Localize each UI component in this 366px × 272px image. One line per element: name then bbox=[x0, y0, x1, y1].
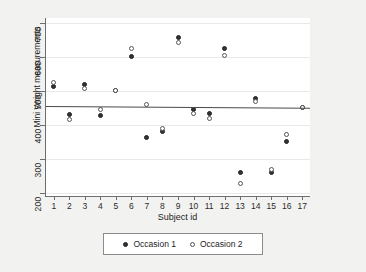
x-tick-5 bbox=[116, 196, 117, 200]
legend-item-occasion-1[interactable]: Occasion 1 bbox=[123, 239, 176, 249]
filled-circle-marker-icon bbox=[123, 242, 128, 247]
x-tick-label-9: 9 bbox=[170, 201, 186, 211]
x-tick-15 bbox=[271, 196, 272, 200]
data-point-s2-x14 bbox=[253, 99, 258, 104]
gridline-y-300 bbox=[46, 159, 310, 160]
data-point-s1-x13 bbox=[238, 170, 243, 175]
x-tick-6 bbox=[131, 196, 132, 200]
data-point-s2-x6 bbox=[129, 46, 134, 51]
x-tick-label-14: 14 bbox=[248, 201, 264, 211]
x-tick-2 bbox=[69, 196, 70, 200]
x-axis-label: Subject id bbox=[45, 212, 310, 222]
x-tick-label-12: 12 bbox=[217, 201, 233, 211]
data-point-s1-x9 bbox=[176, 35, 181, 40]
x-tick-label-4: 4 bbox=[92, 201, 108, 211]
legend-label-occasion-1: Occasion 1 bbox=[133, 239, 176, 249]
x-tick-3 bbox=[85, 196, 86, 200]
gridline-y-200 bbox=[46, 193, 310, 194]
open-circle-marker-icon bbox=[190, 242, 195, 247]
data-point-s2-x11 bbox=[207, 116, 212, 121]
gridline-y-700 bbox=[46, 23, 310, 24]
y-tick-label-300: 300 bbox=[33, 158, 43, 182]
data-point-s2-x8 bbox=[160, 126, 165, 131]
x-tick-9 bbox=[178, 196, 179, 200]
gridline-y-600 bbox=[46, 57, 310, 58]
x-tick-label-8: 8 bbox=[154, 201, 170, 211]
gridline-y-400 bbox=[46, 125, 310, 126]
gridline-y-500 bbox=[46, 91, 310, 92]
x-tick-label-5: 5 bbox=[108, 201, 124, 211]
chart-legend: Occasion 1 Occasion 2 bbox=[103, 233, 263, 255]
x-tick-11 bbox=[209, 196, 210, 200]
data-point-s2-x13 bbox=[238, 181, 243, 186]
x-tick-label-7: 7 bbox=[139, 201, 155, 211]
x-tick-label-13: 13 bbox=[232, 201, 248, 211]
x-tick-label-11: 11 bbox=[201, 201, 217, 211]
x-tick-4 bbox=[100, 196, 101, 200]
x-tick-16 bbox=[287, 196, 288, 200]
data-point-s2-x12 bbox=[222, 53, 227, 58]
data-point-s1-x12 bbox=[222, 46, 227, 51]
data-point-s2-x9 bbox=[176, 40, 181, 45]
data-point-s2-x2 bbox=[67, 117, 72, 122]
x-tick-label-15: 15 bbox=[263, 201, 279, 211]
y-tick-label-200: 200 bbox=[33, 192, 43, 216]
x-tick-label-10: 10 bbox=[186, 201, 202, 211]
chart-figure: 200300400500600700 123456789101112131415… bbox=[0, 0, 366, 272]
x-tick-label-6: 6 bbox=[123, 201, 139, 211]
y-axis-label: Mini Wright measurements bbox=[32, 2, 42, 152]
x-tick-10 bbox=[194, 196, 195, 200]
x-tick-label-1: 1 bbox=[46, 201, 62, 211]
legend-item-occasion-2[interactable]: Occasion 2 bbox=[190, 239, 243, 249]
legend-label-occasion-2: Occasion 2 bbox=[200, 239, 243, 249]
data-point-s1-x4 bbox=[98, 113, 103, 118]
x-tick-12 bbox=[225, 196, 226, 200]
x-tick-label-16: 16 bbox=[279, 201, 295, 211]
x-tick-1 bbox=[54, 196, 55, 200]
x-tick-8 bbox=[162, 196, 163, 200]
x-tick-7 bbox=[147, 196, 148, 200]
x-tick-label-3: 3 bbox=[77, 201, 93, 211]
x-tick-label-17: 17 bbox=[294, 201, 310, 211]
x-tick-label-2: 2 bbox=[61, 201, 77, 211]
data-point-s2-x15 bbox=[269, 167, 274, 172]
x-tick-13 bbox=[240, 196, 241, 200]
x-tick-14 bbox=[256, 196, 257, 200]
x-tick-17 bbox=[302, 196, 303, 200]
